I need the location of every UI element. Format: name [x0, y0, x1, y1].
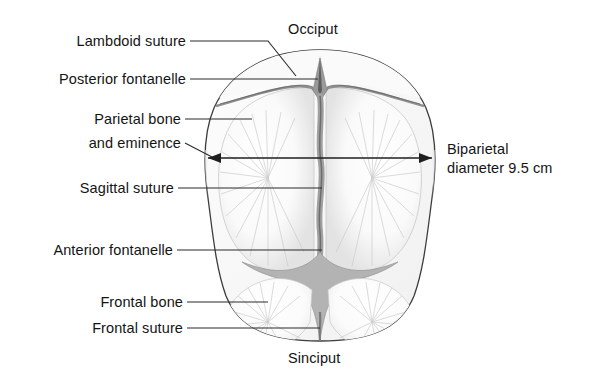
label-sagittal-suture: Sagittal suture: [0, 180, 174, 197]
label-biparietal-diameter-line2: diameter 9.5 cm: [447, 160, 552, 177]
label-parietal-eminence: and eminence: [0, 135, 181, 152]
figure-root: Lambdoid suture Posterior fontanelle Par…: [0, 0, 599, 386]
label-sinciput: Sinciput: [288, 350, 340, 367]
label-posterior-fontanelle: Posterior fontanelle: [0, 71, 186, 88]
label-lambdoid-suture: Lambdoid suture: [0, 33, 186, 50]
label-parietal-bone: Parietal bone: [0, 111, 181, 128]
label-occiput: Occiput: [288, 21, 338, 38]
frontal-suture: [320, 312, 321, 341]
label-biparietal-diameter-line1: Biparietal: [447, 141, 508, 158]
label-anterior-fontanelle: Anterior fontanelle: [0, 242, 173, 259]
label-frontal-suture: Frontal suture: [0, 320, 183, 337]
label-frontal-bone: Frontal bone: [0, 294, 183, 311]
